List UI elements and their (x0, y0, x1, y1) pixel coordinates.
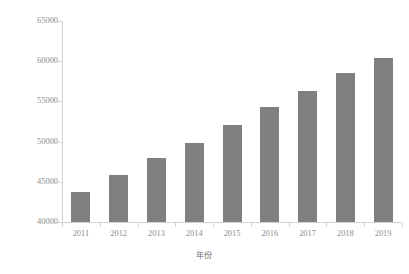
x-tick-mark (251, 223, 252, 227)
y-tick-label: 45000 (22, 178, 58, 186)
bar (298, 91, 317, 222)
y-axis-tick-labels: 400004500050000550006000065000 (22, 0, 58, 274)
y-tick-label: 65000 (22, 17, 58, 25)
bar (260, 107, 279, 222)
x-tick-label: 2015 (212, 230, 252, 238)
x-axis-line (62, 222, 402, 223)
x-tick-label: 2018 (325, 230, 365, 238)
y-tick-label: 50000 (22, 137, 58, 145)
bar (223, 125, 242, 222)
bar (147, 158, 166, 222)
y-tick-label: 40000 (22, 218, 58, 226)
x-tick-label: 2013 (136, 230, 176, 238)
plot-area (62, 21, 402, 222)
x-tick-label: 2019 (363, 230, 403, 238)
y-tick-mark (58, 101, 62, 102)
x-tick-label: 2012 (99, 230, 139, 238)
x-tick-mark (364, 223, 365, 227)
y-tick-mark (58, 61, 62, 62)
bar (71, 192, 90, 222)
x-tick-label: 2017 (288, 230, 328, 238)
x-tick-mark (62, 223, 63, 227)
y-tick-mark (58, 142, 62, 143)
bar-series (62, 21, 402, 222)
y-tick-mark (58, 182, 62, 183)
x-tick-mark (138, 223, 139, 227)
bar-chart: 建成区面积(km²) 40000450005000055000600006500… (0, 0, 409, 274)
y-tick-label: 55000 (22, 97, 58, 105)
bar (336, 73, 355, 222)
x-axis-title: 年份 (0, 248, 409, 260)
x-tick-label: 2016 (250, 230, 290, 238)
x-tick-mark (402, 223, 403, 227)
bar (185, 143, 204, 222)
x-axis-tick-labels: 201120122013201420152016201720182019 (62, 230, 402, 244)
y-tick-mark (58, 21, 62, 22)
x-tick-mark (326, 223, 327, 227)
bar (374, 58, 393, 222)
x-tick-label: 2014 (174, 230, 214, 238)
x-tick-label: 2011 (61, 230, 101, 238)
x-tick-mark (213, 223, 214, 227)
y-tick-label: 60000 (22, 57, 58, 65)
x-tick-mark (175, 223, 176, 227)
x-tick-mark (289, 223, 290, 227)
bar (109, 175, 128, 222)
x-tick-mark (100, 223, 101, 227)
